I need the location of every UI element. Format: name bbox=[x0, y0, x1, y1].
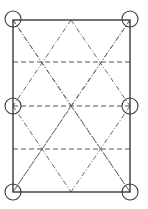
diagonal-dashdot-line bbox=[13, 20, 71, 106]
diagonal-dashdot-line bbox=[71, 20, 130, 106]
horizontal-dashed-lines bbox=[13, 62, 130, 149]
lattice-diagram bbox=[0, 0, 148, 209]
